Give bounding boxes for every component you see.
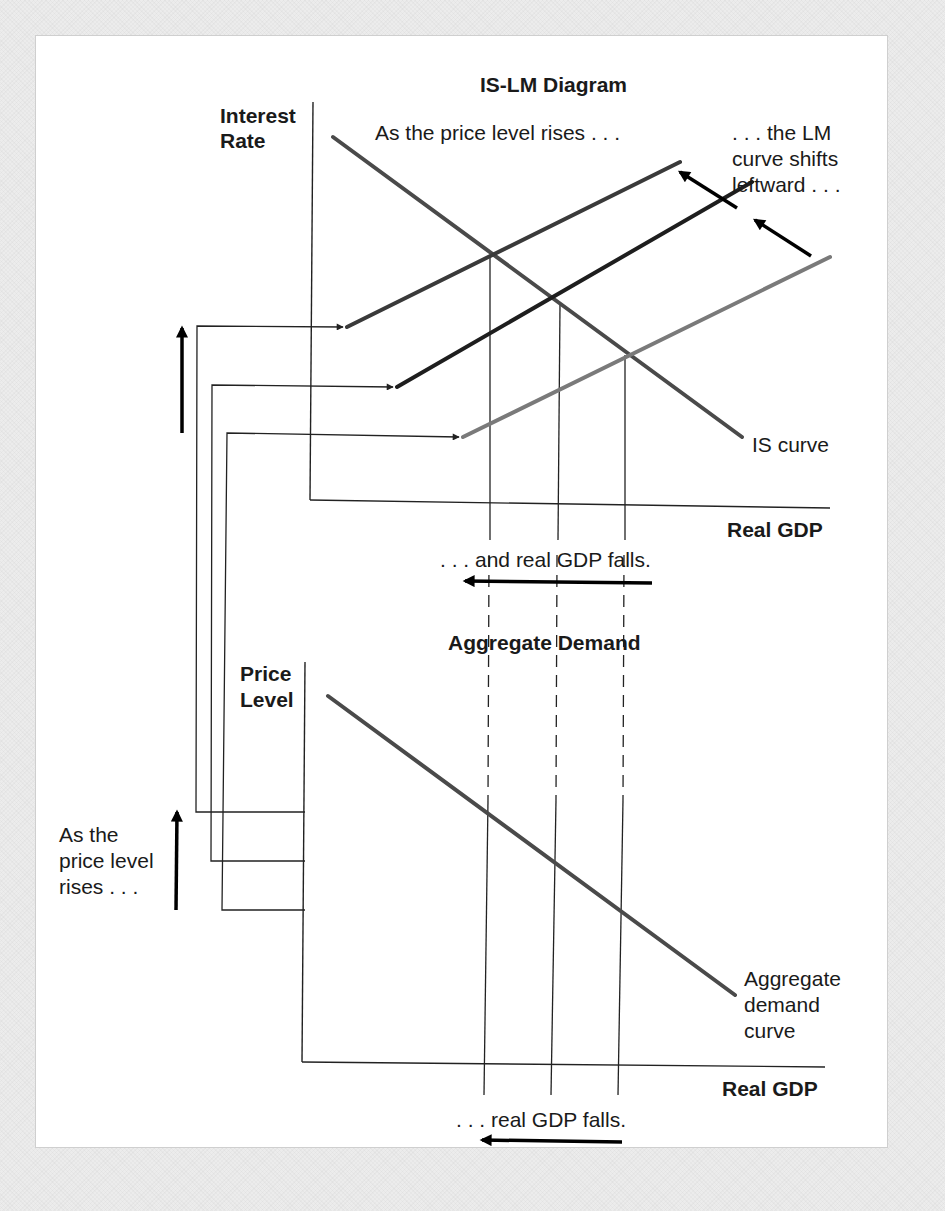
real-gdp-label-bottom: Real GDP bbox=[722, 1076, 818, 1101]
price-rises-annotation-bottom-line1: As the bbox=[59, 822, 119, 847]
price-level-axis bbox=[302, 662, 305, 1062]
ad-curve-label-line1: Aggregate bbox=[744, 966, 841, 991]
price-rises-annotation-bottom-line3: rises . . . bbox=[59, 874, 138, 899]
equilibrium-drop-lines-top bbox=[490, 255, 625, 540]
price-level-label-line1: Price bbox=[240, 661, 291, 686]
price-rises-annotation-bottom-line2: price level bbox=[59, 848, 154, 873]
gdp-falls-arrow-top bbox=[465, 581, 652, 583]
interest-rate-label-line1: Interest bbox=[220, 103, 296, 128]
dashed-connectors bbox=[488, 555, 624, 800]
lm-shift-arrow-1 bbox=[680, 172, 737, 208]
aggregate-demand-curve bbox=[328, 696, 735, 995]
real-gdp-axis-top bbox=[310, 500, 830, 508]
interest-rate-axis bbox=[310, 102, 313, 500]
real-gdp-label-top: Real GDP bbox=[727, 517, 823, 542]
ad-curve-label-line2: demand bbox=[744, 992, 820, 1017]
gdp-falls-annotation-top: . . . and real GDP falls. bbox=[440, 547, 651, 572]
gdp-falls-annotation-bottom: . . . real GDP falls. bbox=[456, 1107, 626, 1132]
lm-shift-arrow-2 bbox=[755, 220, 811, 256]
equilibrium-drop-lines-bottom bbox=[484, 800, 623, 1095]
gdp-falls-arrow-bottom bbox=[482, 1140, 622, 1142]
lm-curve-low-price bbox=[463, 257, 830, 437]
lm-shift-annotation-line3: leftward . . . bbox=[732, 172, 841, 197]
is-curve bbox=[333, 137, 742, 437]
price-rises-arrow-bottom bbox=[176, 812, 177, 910]
lm-curve-high-price bbox=[347, 162, 680, 327]
aggregate-demand-title: Aggregate Demand bbox=[448, 630, 641, 655]
interest-rate-label-line2: Rate bbox=[220, 128, 266, 153]
price-rises-annotation-top: As the price level rises . . . bbox=[375, 120, 620, 145]
is-curve-label: IS curve bbox=[752, 432, 829, 457]
is-lm-title: IS-LM Diagram bbox=[480, 72, 627, 97]
real-gdp-axis-bottom bbox=[302, 1062, 825, 1067]
lm-shift-annotation-line1: . . . the LM bbox=[732, 120, 831, 145]
ad-curve-label-line3: curve bbox=[744, 1018, 795, 1043]
price-level-connectors bbox=[196, 326, 459, 910]
price-level-label-line2: Level bbox=[240, 687, 294, 712]
lm-shift-annotation-line2: curve shifts bbox=[732, 146, 838, 171]
